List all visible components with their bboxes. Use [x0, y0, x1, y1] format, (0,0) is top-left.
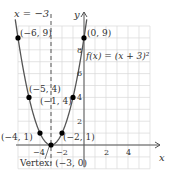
point-label: (−6, 9): [20, 28, 52, 38]
y-tick: 2: [77, 117, 82, 126]
axis-of-symmetry-label: x = −3: [14, 8, 49, 19]
x-tick: 2: [104, 148, 109, 157]
point-label: (−4, 1): [1, 132, 33, 142]
data-point: [81, 35, 86, 40]
function-label: f(x) = (x + 3)²: [85, 51, 150, 61]
y-axis-label: y: [73, 9, 80, 20]
point-label: (0, 9): [87, 28, 111, 38]
data-point: [48, 142, 53, 147]
x-tick: −2: [56, 148, 68, 157]
x-tick: 4: [126, 148, 131, 157]
point-label: (−1, 4): [40, 96, 72, 106]
x-tick: −4: [33, 148, 45, 157]
data-point: [26, 95, 31, 100]
point-label: (−5, 4): [29, 84, 61, 94]
y-tick: 4: [77, 93, 82, 102]
x-axis-label: x: [159, 152, 165, 163]
vertex-label: Vertex: (−3, 0): [19, 158, 87, 168]
data-point: [37, 131, 42, 136]
y-tick: 8: [77, 46, 82, 55]
point-label: (−2, 1): [63, 132, 95, 142]
parabola-chart: x = −3 y x f(x) = (x + 3)² (−6, 9) (0, 9…: [0, 0, 172, 177]
y-tick: 6: [77, 69, 82, 78]
